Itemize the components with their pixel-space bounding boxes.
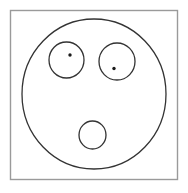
right-eye-circle — [99, 43, 135, 80]
image-canvas — [0, 0, 188, 193]
left-eye-circle — [49, 42, 84, 78]
right-pupil-dot — [112, 67, 115, 70]
left-pupil-dot — [68, 53, 71, 56]
mouth-circle — [79, 121, 106, 149]
face-drawing — [0, 0, 188, 193]
